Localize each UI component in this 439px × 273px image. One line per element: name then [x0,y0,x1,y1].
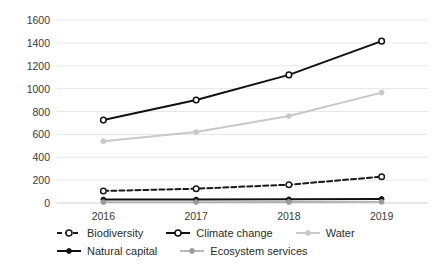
legend-key-icon [165,226,191,240]
y-axis-tick-label: 600 [32,128,50,140]
legend-key-icon [56,226,82,240]
gridlines [57,20,428,203]
data-point-marker [194,200,199,205]
dashed-open-circle-key [56,226,82,240]
data-point-marker [101,200,106,205]
data-point-marker [193,186,199,192]
solid-light-filled-circle-key [295,226,321,240]
series-line-natural-capital [103,199,381,200]
legend-item-biodiversity[interactable]: Biodiversity [56,224,143,242]
legend-item-water[interactable]: Water [295,224,355,242]
y-axis-tick-label: 200 [32,174,50,186]
legend-key-icon [295,226,321,240]
y-axis-tick-label: 0 [44,197,50,209]
series-line-climate-change [103,41,381,120]
y-axis-tick-label: 1400 [27,37,51,49]
x-axis-tick-label: 2016 [92,210,116,222]
data-point-marker [379,38,385,44]
data-point-marker [379,199,384,204]
x-axis-tick-label: 2018 [277,210,301,222]
data-point-marker [379,90,384,95]
data-point-marker [194,130,199,135]
legend-key-icon [56,244,82,258]
data-point-marker [286,72,292,78]
line-chart: 02004006008001000120014001600 2016201720… [0,0,439,273]
series-markers [101,38,385,204]
data-point-marker [193,97,199,103]
data-point-marker [286,200,291,205]
data-point-marker [286,114,291,119]
legend-item-label: Natural capital [87,244,157,258]
y-axis-tick-label: 800 [32,106,50,118]
series-line-biodiversity [103,177,381,191]
legend-row: Natural capitalEcosystem services [0,242,439,260]
legend-item-label: Climate change [196,226,272,240]
legend-item-label: Biodiversity [87,226,143,240]
legend-row: BiodiversityClimate changeWater [0,224,439,242]
y-axis-tick-label: 400 [32,151,50,163]
legend-item-ecosystem-services[interactable]: Ecosystem services [179,242,307,260]
legend-key-icon [179,244,205,258]
legend-item-label: Ecosystem services [210,244,307,258]
y-axis-tick-label: 1600 [27,14,51,26]
solid-gray-filled-circle-key [179,244,205,258]
data-point-marker [286,182,292,188]
x-axis-tick-labels: 2016201720182019 [92,210,394,222]
legend-item-natural-capital[interactable]: Natural capital [56,242,157,260]
legend-item-climate-change[interactable]: Climate change [165,224,272,242]
chart-legend: BiodiversityClimate changeWaterNatural c… [0,224,439,270]
x-axis-tick-label: 2017 [184,210,208,222]
y-axis-tick-label: 1200 [27,60,51,72]
data-point-marker [379,174,385,180]
x-axis-tick-label: 2019 [370,210,394,222]
solid-open-circle-key [165,226,191,240]
y-axis-tick-labels: 02004006008001000120014001600 [27,14,51,209]
solid-filled-circle-key [56,244,82,258]
data-point-marker [101,117,107,123]
y-axis-tick-label: 1000 [27,83,51,95]
data-point-marker [101,188,107,194]
legend-item-label: Water [326,226,355,240]
data-point-marker [101,139,106,144]
